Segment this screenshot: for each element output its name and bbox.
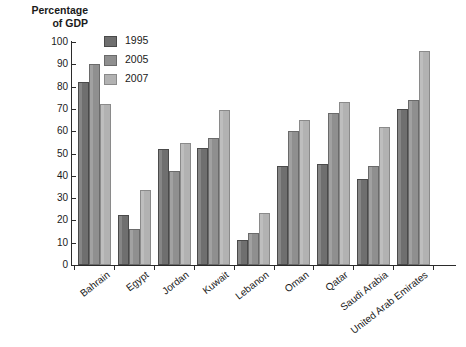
bar-group (237, 42, 270, 265)
y-tick-label: 70 (0, 104, 68, 114)
legend-label: 2005 (125, 53, 148, 66)
legend-swatch-icon (104, 55, 117, 66)
x-tick-label: Oman (282, 269, 310, 294)
bar-group (317, 42, 350, 265)
x-tick-label: Jordan (160, 269, 191, 296)
bar (379, 127, 390, 265)
bar (158, 149, 169, 265)
bar (397, 109, 408, 265)
bar-chart: Percentage of GDP 0102030405060708090100… (0, 0, 466, 347)
bar (357, 179, 368, 265)
x-tick-label: Qatar (324, 269, 350, 293)
bar (339, 102, 350, 265)
x-axis-line (71, 265, 456, 266)
legend-label: 1995 (125, 34, 148, 47)
y-tick-label: 0 (0, 260, 68, 270)
y-tick-label: 20 (0, 215, 68, 225)
x-tick-mark (353, 266, 354, 270)
y-tick-label: 100 (0, 37, 68, 47)
bar (237, 240, 248, 265)
bar (248, 233, 259, 265)
y-tick-label: 90 (0, 59, 68, 69)
x-tick-mark (194, 266, 195, 270)
y-tick-label: 60 (0, 126, 68, 136)
bar (408, 100, 419, 265)
legend-swatch-icon (104, 36, 117, 47)
bar (180, 143, 191, 265)
bar-group (397, 42, 430, 265)
x-tick-mark (274, 266, 275, 270)
bar (299, 120, 310, 265)
bar (208, 138, 219, 265)
bar (259, 213, 270, 265)
y-tick-label: 80 (0, 82, 68, 92)
y-tick-label: 50 (0, 149, 68, 159)
bar (368, 166, 379, 265)
bar (328, 113, 339, 265)
x-tick-mark (433, 266, 434, 270)
x-tick-mark (313, 266, 314, 270)
y-tick-label: 40 (0, 171, 68, 181)
bar (129, 229, 140, 265)
bar-group (158, 42, 191, 265)
bar (219, 110, 230, 265)
x-tick-mark (393, 266, 394, 270)
bar (169, 171, 180, 265)
bar (140, 190, 151, 265)
bar-group (357, 42, 390, 265)
bar-group (277, 42, 310, 265)
y-axis-title: Percentage of GDP (2, 4, 88, 29)
y-tick-label: 30 (0, 193, 68, 203)
x-tick-label: Bahrain (77, 269, 111, 299)
bar (419, 51, 430, 265)
x-tick-mark (74, 266, 75, 270)
bar (317, 164, 328, 265)
bar (277, 166, 288, 265)
bar (118, 215, 129, 265)
bar (89, 64, 100, 265)
y-tick-label: 10 (0, 238, 68, 248)
bar (197, 148, 208, 265)
bar (288, 131, 299, 265)
x-tick-mark (234, 266, 235, 270)
bar (78, 82, 89, 265)
bar (100, 104, 111, 265)
legend-label: 2007 (125, 72, 148, 85)
x-tick-label: United Arab Emirates (349, 269, 430, 336)
x-tick-mark (154, 266, 155, 270)
x-tick-mark (114, 266, 115, 270)
x-tick-label: Lebanon (233, 269, 270, 302)
legend-swatch-icon (104, 74, 117, 85)
x-tick-label: Egypt (124, 269, 151, 293)
x-tick-label: Kuwait (200, 269, 230, 296)
bar-group (197, 42, 230, 265)
